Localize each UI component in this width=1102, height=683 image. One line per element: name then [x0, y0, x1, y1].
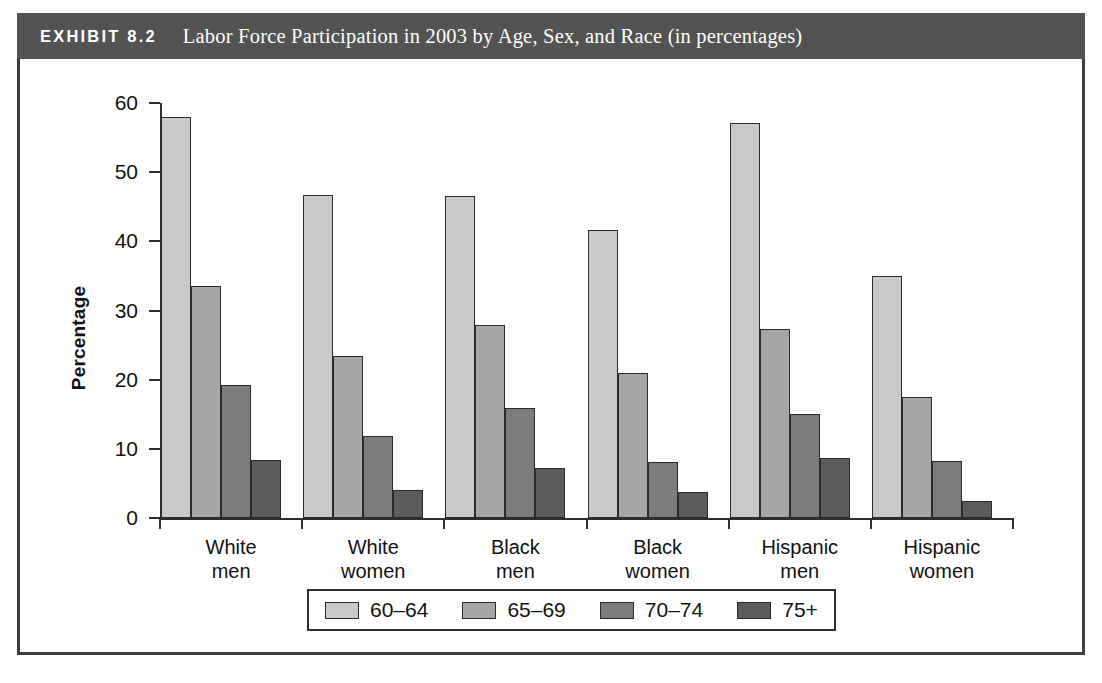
exhibit-label: EXHIBIT 8.2: [40, 27, 157, 46]
y-axis-tick-label: 0: [126, 506, 138, 530]
y-axis-tick: [149, 379, 160, 381]
legend-label: 65–69: [507, 598, 565, 622]
bar: [962, 501, 992, 518]
bar-group: [730, 103, 850, 518]
legend-swatch: [462, 602, 496, 619]
bar: [618, 373, 648, 518]
y-axis-tick-label: 30: [115, 299, 138, 323]
x-axis-group-label: White men: [160, 535, 302, 584]
bar: [505, 408, 535, 518]
bar: [393, 490, 423, 518]
legend-label: 60–64: [370, 598, 428, 622]
legend-label: 75+: [782, 598, 818, 622]
y-axis-tick: [149, 448, 160, 450]
bar: [333, 356, 363, 518]
x-axis-tick: [301, 518, 303, 529]
y-axis-tick-label: 60: [115, 91, 138, 115]
x-axis-tick: [159, 518, 161, 529]
bar: [363, 436, 393, 518]
x-axis-tick: [870, 518, 872, 529]
y-axis-tick-label: 10: [115, 437, 138, 461]
bar: [760, 329, 790, 518]
bar: [221, 385, 251, 518]
bar-group: [872, 103, 992, 518]
bar: [648, 462, 678, 518]
legend-swatch: [325, 602, 359, 619]
bar-group: [303, 103, 423, 518]
legend-item[interactable]: 60–64: [325, 598, 428, 622]
y-axis-tick: [149, 171, 160, 173]
bar: [932, 461, 962, 518]
bar: [191, 286, 221, 518]
y-axis-tick: [149, 310, 160, 312]
y-axis-title: Percentage: [68, 258, 90, 418]
x-axis-tick: [443, 518, 445, 529]
bar: [535, 468, 565, 518]
bar: [790, 414, 820, 518]
bar: [161, 117, 191, 518]
chart-area: Percentage 0102030405060 White menWhite …: [17, 59, 1085, 655]
legend-item[interactable]: 75+: [737, 598, 818, 622]
bar: [820, 458, 850, 518]
exhibit-title: Labor Force Participation in 2003 by Age…: [183, 25, 803, 48]
legend-item[interactable]: 65–69: [462, 598, 565, 622]
bar: [251, 460, 281, 518]
x-axis-group-label: Black women: [587, 535, 729, 584]
exhibit-header: EXHIBIT 8.2 Labor Force Participation in…: [17, 13, 1085, 59]
chart-legend: 60–6465–6970–7475+: [307, 589, 836, 631]
bar-group: [588, 103, 708, 518]
legend-swatch: [737, 602, 771, 619]
legend-swatch: [600, 602, 634, 619]
x-axis-group-label: White women: [302, 535, 444, 584]
bar-group: [161, 103, 281, 518]
y-axis-tick-label: 20: [115, 368, 138, 392]
bar: [872, 276, 902, 518]
bar: [445, 196, 475, 518]
bar: [475, 325, 505, 518]
plot-region: 0102030405060 White menWhite womenBlack …: [160, 103, 1013, 518]
bar-group: [445, 103, 565, 518]
legend-item[interactable]: 70–74: [600, 598, 703, 622]
plot-wrapper: Percentage 0102030405060 White menWhite …: [17, 59, 1085, 655]
y-axis-tick: [149, 240, 160, 242]
y-axis-tick-label: 40: [115, 229, 138, 253]
y-axis-tick: [149, 102, 160, 104]
y-axis-tick-label: 50: [115, 160, 138, 184]
x-axis-group-label: Black men: [444, 535, 586, 584]
bar: [678, 492, 708, 518]
x-axis-tick: [1012, 518, 1014, 529]
page-background: EXHIBIT 8.2 Labor Force Participation in…: [0, 0, 1102, 683]
bar: [588, 230, 618, 518]
bar: [902, 397, 932, 518]
bar: [730, 123, 760, 518]
x-axis-tick: [728, 518, 730, 529]
bar: [303, 195, 333, 518]
legend-label: 70–74: [645, 598, 703, 622]
x-axis-group-label: Hispanic women: [871, 535, 1013, 584]
x-axis-tick: [586, 518, 588, 529]
x-axis-group-label: Hispanic men: [729, 535, 871, 584]
